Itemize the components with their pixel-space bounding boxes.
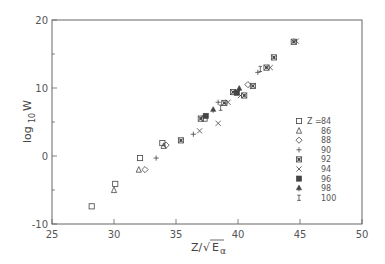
x-tick-label: 25 [46,229,59,240]
legend-label: 86 [321,127,331,136]
axis-ticks: 253035404550-1001020 [32,15,369,240]
y-axis-label-W: W [21,100,34,111]
legend-prefix: Z = [307,117,322,126]
y-axis-label-log: log [21,126,34,143]
x-tick-label: 40 [232,229,245,240]
legend-item-94: 94 [296,165,331,174]
y-axis-title: log 10 W [21,100,37,143]
data-points [89,38,299,208]
triangle-marker [136,167,141,173]
boxed-asterisk-marker [266,67,268,69]
legend-item-86: 86 [296,127,331,136]
square-marker [89,204,94,209]
legend-label: 90 [321,146,331,155]
legend-label: 88 [321,136,331,145]
filled-square-marker [234,90,239,95]
boxed-asterisk-marker [223,102,225,104]
legend-item-92: 92 [296,155,331,164]
legend-label: 92 [321,155,331,164]
legend-item-98: 98 [296,184,331,193]
x-axis-label-sqrt: √ [203,241,211,254]
diamond-marker [296,137,302,143]
x-tick-label: 30 [108,229,121,240]
boxed-asterisk-marker [243,94,245,96]
triangle-marker [111,187,116,193]
scatter-chart: 253035404550-1001020 Z =8486889092949698… [0,0,385,264]
x-tick-label: 50 [356,229,369,240]
y-tick-label: 20 [35,15,48,26]
square-marker [296,118,301,123]
series-z-86 [111,143,166,193]
legend-item-90: 90 [296,146,331,155]
boxed-asterisk-marker [200,118,202,120]
legend: Z =8486889092949698100 [296,117,336,203]
series-z-84 [89,116,207,209]
y-axis-label-subscript: 10 [28,113,37,123]
x-axis-label-E: E [212,241,219,254]
series-z-94 [197,38,299,133]
legend-label: 98 [321,184,331,193]
legend-label: 100 [321,194,336,203]
boxed-asterisk-marker [273,56,275,58]
series-z-98 [211,86,242,113]
x-axis-title: Z/ √ E α [191,240,226,256]
legend-label: 94 [321,165,331,174]
x-tick-label: 35 [170,229,183,240]
legend-item-84: Z =84 [296,117,331,126]
boxed-asterisk-marker [298,158,300,160]
filled-square-marker [203,113,208,118]
square-marker [113,181,118,186]
legend-item-96: 96 [296,175,331,184]
x-tick-label: 45 [294,229,307,240]
triangle-marker [296,128,301,134]
boxed-asterisk-marker [252,85,254,87]
y-tick-label: 10 [35,83,48,94]
diamond-marker [142,167,148,173]
boxed-asterisk-marker [180,139,182,141]
series-z-96 [203,90,239,118]
legend-label: 96 [321,175,331,184]
boxed-asterisk-marker [232,91,234,93]
y-tick-label: -10 [32,219,48,230]
filled-square-marker [296,176,301,181]
x-axis-label-subscript: α [220,246,226,256]
x-axis-label-prefix: Z/ [191,241,203,254]
legend-label: 84 [321,117,331,126]
legend-item-88: 88 [296,136,331,145]
y-tick-label: 0 [42,151,48,162]
legend-item-100: 100 [297,194,336,203]
square-marker [137,155,142,160]
